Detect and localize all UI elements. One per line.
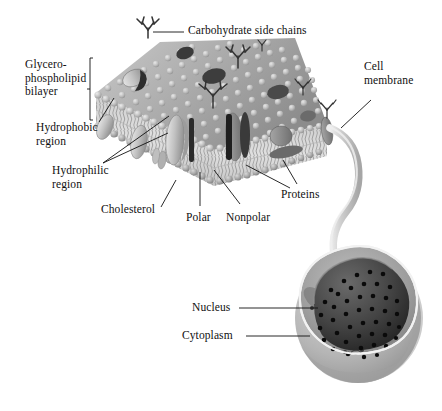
protein-channel-dark-2 — [226, 114, 232, 160]
diagram-canvas: Carbohydrate side chains Glycero- phosph… — [0, 0, 442, 411]
label-hydrophilic-region: Hydrophilic region — [52, 164, 114, 191]
label-cholesterol: Cholesterol — [101, 203, 155, 217]
label-carbohydrate-side-chains: Carbohydrate side chains — [188, 24, 307, 38]
protein-peripheral-round — [270, 126, 292, 146]
cell-illustration — [295, 246, 423, 383]
carbohydrate-side-chain-1 — [137, 17, 159, 38]
label-cytoplasm: Cytoplasm — [182, 329, 233, 343]
label-cell-membrane: Cell membrane — [364, 60, 426, 87]
leader-cell-membrane — [341, 100, 371, 128]
bracket-glycerophospholipid — [87, 58, 93, 120]
membrane-slab — [90, 17, 340, 192]
label-glycerophospholipid-bilayer: Glycero- phospholipid bilayer — [25, 58, 87, 99]
label-hydrophobic-region: Hydrophobic region — [36, 121, 102, 148]
label-proteins: Proteins — [281, 188, 320, 202]
protein-transmembrane-4 — [240, 112, 250, 158]
label-polar: Polar — [186, 211, 211, 225]
label-nonpolar: Nonpolar — [226, 211, 270, 225]
label-nucleus: Nucleus — [192, 301, 230, 315]
leader-cholesterol — [161, 180, 176, 207]
protein-channel-dark-1 — [189, 118, 194, 162]
